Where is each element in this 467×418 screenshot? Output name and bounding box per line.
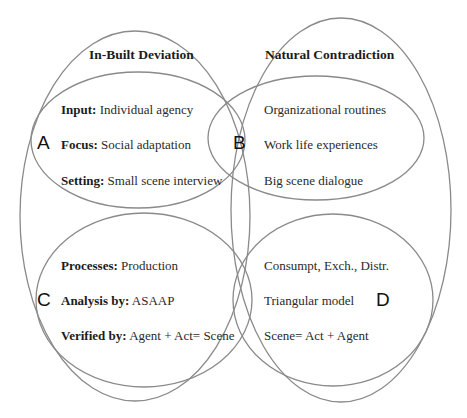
row-label: Input: bbox=[61, 102, 96, 117]
quadrant-c-row-1: Processes: Production bbox=[61, 258, 178, 273]
quadrant-d-row-1: Consumpt, Exch., Distr. bbox=[264, 258, 389, 273]
quadrant-a-row-3: Setting: Small scene interview bbox=[61, 173, 222, 188]
quadrant-c-row-2: Analysis by: ASAAP bbox=[61, 293, 174, 308]
quadrant-letter-a: A bbox=[37, 133, 50, 153]
row-label: Verified by: bbox=[61, 328, 127, 343]
quadrant-a-row-2: Focus: Social adaptation bbox=[61, 137, 191, 152]
right-group-title: Natural Contradiction bbox=[265, 47, 394, 62]
row-value: Production bbox=[118, 258, 178, 273]
quadrant-a-row-1: Input: Individual agency bbox=[61, 102, 193, 117]
quadrant-c-row-3: Verified by: Agent + Act= Scene bbox=[61, 328, 234, 343]
row-value: Agent + Act= Scene bbox=[127, 328, 235, 343]
row-value: Individual agency bbox=[96, 102, 193, 117]
left-group-title: In-Built Deviation bbox=[89, 47, 194, 62]
quadrant-b-row-1: Organizational routines bbox=[264, 102, 386, 117]
row-value: Social adaptation bbox=[98, 137, 191, 152]
quadrant-d-row-2: Triangular model bbox=[264, 293, 354, 308]
quadrant-letter-b: B bbox=[233, 133, 246, 153]
row-value: Small scene interview bbox=[104, 173, 222, 188]
venn-shapes bbox=[0, 0, 467, 418]
quadrant-b-row-2: Work life experiences bbox=[264, 137, 378, 152]
row-label: Analysis by: bbox=[61, 293, 129, 308]
row-label: Setting: bbox=[61, 173, 104, 188]
left-group-ellipse bbox=[20, 31, 250, 401]
quadrant-letter-c: C bbox=[37, 290, 51, 310]
row-label: Focus: bbox=[61, 137, 98, 152]
quadrant-letter-d: D bbox=[376, 290, 390, 310]
row-value: ASAAP bbox=[129, 293, 174, 308]
row-label: Processes: bbox=[61, 258, 118, 273]
quadrant-d-row-3: Scene= Act + Agent bbox=[264, 328, 369, 343]
quadrant-b-row-3: Big scene dialogue bbox=[264, 173, 363, 188]
